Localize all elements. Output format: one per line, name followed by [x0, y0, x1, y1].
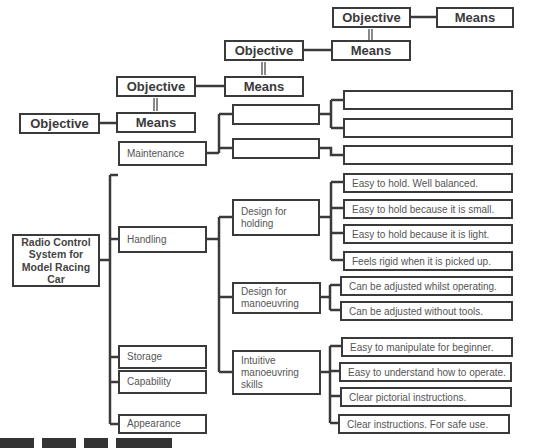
means-box-1: Means	[436, 7, 514, 28]
empty-middle-box	[232, 104, 320, 125]
leaf-item: Clear instructions. For safe use.	[338, 414, 510, 434]
leaf-item: Feels rigid when it is picked up.	[343, 251, 513, 271]
root-node: Radio Control System for Model Racing Ca…	[12, 234, 100, 287]
means-box-2: Means	[331, 40, 411, 61]
leaf-item: Can be adjusted without tools.	[340, 301, 513, 321]
leaf-item: Clear pictorial instructions.	[340, 387, 512, 407]
leaf-item: Easy to hold because it is light.	[343, 224, 513, 244]
subgroup-design-for-manoeuvring: Design for manoeuvring	[232, 282, 321, 314]
leaf-item: Easy to hold. Well balanced.	[343, 173, 513, 193]
empty-right-box	[343, 118, 513, 138]
category-handling: Handling	[118, 226, 207, 253]
means-box-3: Means	[224, 76, 304, 97]
category-maintenance: Maintenance	[118, 141, 207, 166]
empty-right-box	[343, 90, 513, 110]
empty-middle-box	[232, 138, 320, 159]
objective-box-1: Objective	[332, 7, 411, 28]
subgroup-design-for-holding: Design for holding	[232, 199, 320, 236]
category-appearance: Appearance	[118, 414, 207, 434]
means-box-4: Means	[116, 112, 196, 133]
leaf-item: Easy to hold because it is small.	[343, 199, 513, 219]
subgroup-intuitive-manoeuvring-skills: Intuitive manoeuvring skills	[232, 350, 321, 395]
empty-right-box	[343, 145, 513, 165]
leaf-item: Can be adjusted whilst operating.	[340, 276, 513, 296]
leaf-item: Easy to understand how to operate.	[339, 362, 512, 382]
objective-box-3: Objective	[116, 76, 196, 97]
objective-box-2: Objective	[224, 40, 304, 61]
category-storage: Storage	[118, 345, 207, 369]
category-capability: Capability	[118, 370, 207, 394]
objective-box-4: Objective	[19, 113, 100, 134]
figure-caption-cropped	[0, 438, 215, 448]
leaf-item: Easy to manipulate for beginner.	[341, 337, 513, 357]
